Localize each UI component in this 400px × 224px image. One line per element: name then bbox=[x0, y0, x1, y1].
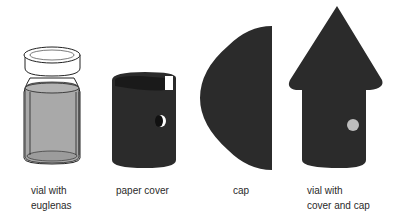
assembled-illustration bbox=[289, 6, 383, 168]
label-paper-cover: paper cover bbox=[116, 183, 169, 198]
label-vial: vial with euglenas bbox=[31, 183, 72, 213]
vial-illustration bbox=[24, 47, 80, 164]
label-assembled: vial with cover and cap bbox=[307, 183, 370, 213]
paper-cover-illustration bbox=[112, 72, 176, 168]
cap-illustration bbox=[200, 26, 272, 170]
label-cap: cap bbox=[233, 183, 249, 198]
